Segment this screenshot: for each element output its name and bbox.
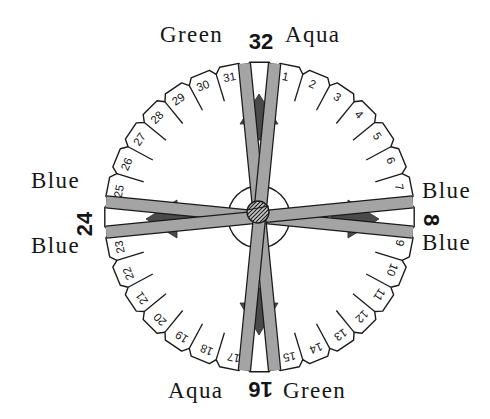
slot-number: 23: [113, 239, 127, 254]
position-label-top: 32: [249, 29, 273, 54]
color-label-left-lower: Blue: [31, 233, 80, 258]
kumihimo-disk-diagram: 1234567910111213141517181920212223252627…: [0, 0, 490, 419]
position-label-bottom: 16: [248, 377, 272, 402]
color-label-bottom-left: Aqua: [168, 378, 223, 403]
slot-number: 31: [222, 70, 237, 84]
color-label-bottom-right: Green: [283, 378, 346, 403]
color-label-top-left: Green: [160, 22, 223, 47]
slot-number: 15: [282, 350, 297, 364]
color-label-right-lower: Blue: [422, 230, 471, 255]
diagram-canvas: 1234567910111213141517181920212223252627…: [0, 0, 490, 419]
color-label-top-right: Aqua: [285, 22, 340, 47]
color-label-left-upper: Blue: [31, 168, 80, 193]
position-label-right: 8: [419, 214, 444, 226]
color-label-right-upper: Blue: [422, 178, 471, 203]
